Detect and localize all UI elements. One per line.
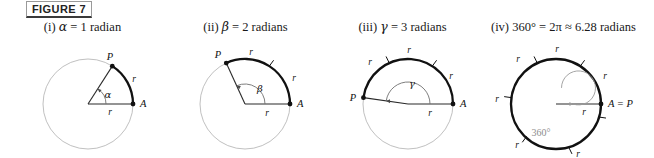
spiral-arrowhead (569, 102, 573, 106)
point-a-dot (288, 102, 293, 107)
radius-line-to-p (363, 98, 408, 104)
panel-caption-rest-iv: = 2π ≈ 6.28 radians (536, 20, 636, 34)
arc-label-r-2: r (292, 73, 296, 83)
point-a-dot (599, 102, 604, 107)
point-p-dot (361, 95, 366, 100)
arc-label-r-1: r (407, 45, 411, 55)
panel-numeral-i: (i) (44, 20, 56, 34)
arc-label-r-6: r (603, 71, 607, 81)
point-label-p: P (349, 92, 357, 103)
arc-bold-beta (226, 59, 290, 104)
panel-symbol-iii: γ (380, 19, 387, 34)
arc-tick-1 (580, 60, 584, 66)
panel-figure-ii: P A r r r β (163, 36, 328, 158)
arc-tick-2 (534, 56, 537, 63)
panel-beta-2-radians: (ii) β = 2 radians P A r r r β (163, 20, 328, 158)
arc-label-r-5: r (576, 149, 580, 158)
point-label-p: P (214, 49, 222, 60)
panel-caption-rest-ii: = 2 radians (229, 20, 288, 34)
panel-360-degrees: (iv) 360° = 2π ≈ 6.28 radians A = P r r … (481, 20, 646, 158)
point-label-p: P (106, 51, 114, 62)
point-label-a-equals-p: A = P (607, 98, 634, 109)
radius-label-horizontal: r (582, 107, 586, 117)
panel-numeral-ii: (ii) (203, 20, 218, 34)
panel-caption-rest-i: = 1 radian (67, 20, 121, 34)
arc-label-r-1: r (132, 74, 136, 84)
panel-symbol-i: α (59, 19, 67, 34)
point-a-dot (131, 102, 136, 107)
arc-tick-3 (504, 97, 511, 98)
point-a-dot (451, 102, 456, 107)
point-label-a: A (139, 98, 147, 109)
panel-caption-ii: (ii) β = 2 radians (163, 20, 328, 34)
panel-caption-rest-iii: = 3 radians (388, 20, 447, 34)
panel-gamma-3-radians: (iii) γ = 3 radians P A r r r r γ (320, 20, 485, 158)
panel-caption-iii: (iii) γ = 3 radians (320, 20, 485, 34)
point-p-dot (224, 61, 229, 66)
arc-tick-1 (432, 60, 436, 66)
arc-label-r-3: r (495, 94, 499, 104)
arc-label-r-2: r (368, 57, 372, 67)
point-label-a: A (459, 98, 467, 109)
radius-label-horizontal: r (265, 108, 269, 118)
panel-numeral-iv: (iv) (491, 20, 509, 34)
radius-label-horizontal: r (428, 108, 432, 118)
panel-figure-i: P A r r α (0, 36, 165, 158)
arc-tick-5 (569, 147, 572, 154)
arc-label-r-4: r (515, 140, 519, 150)
angle-label-gamma: γ (409, 78, 415, 89)
panel-figure-iv: A = P r r r r r r r 360° (481, 36, 646, 158)
panel-caption-i: (i) α = 1 radian (0, 20, 165, 34)
arc-label-r-3: r (449, 71, 453, 81)
panel-numeral-iii: (iii) (358, 20, 377, 34)
point-p-dot (110, 64, 115, 69)
arc-bold-alpha (112, 66, 133, 104)
angle-label-360: 360° (532, 127, 551, 138)
point-label-a: A (296, 98, 304, 109)
panel-alpha-1-radian: (i) α = 1 radian P A r r α (0, 20, 165, 158)
radius-label-horizontal: r (108, 107, 112, 117)
arc-label-r-1: r (249, 47, 253, 57)
arc-tick-2 (386, 56, 389, 63)
spiral-360 (556, 71, 596, 105)
angle-label-alpha: α (105, 89, 112, 100)
angle-label-beta: β (256, 83, 263, 94)
arc-label-r-2: r (516, 54, 520, 64)
figure-label: FIGURE 7 (26, 1, 92, 18)
panel-caption-iv: (iv) 360° = 2π ≈ 6.28 radians (481, 20, 646, 34)
panel-figure-iii: P A r r r r γ (320, 36, 485, 158)
panel-symbol-iv: 360° (512, 20, 536, 34)
arc-label-r-1: r (555, 44, 559, 54)
radius-line-to-p (226, 63, 245, 104)
panel-symbol-ii: β (222, 19, 229, 34)
arc-tick-1 (269, 60, 273, 66)
